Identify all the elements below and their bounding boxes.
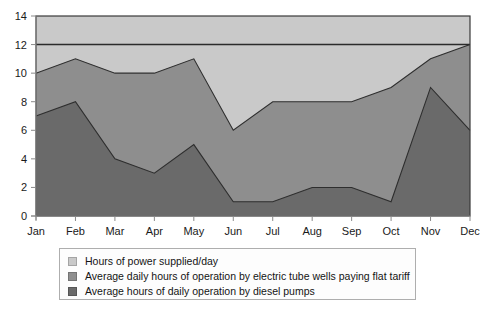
x-axis-tick-label: Oct	[383, 225, 400, 237]
y-axis-tick-label: 14	[15, 10, 27, 22]
x-axis-tick-label: Sep	[342, 225, 362, 237]
x-axis-tick-label: Jan	[27, 225, 45, 237]
legend-label-power-supplied: Hours of power supplied/day	[85, 254, 218, 268]
legend-swatch-diesel-pumps	[68, 287, 77, 296]
y-axis-tick-label: 12	[15, 39, 27, 51]
y-axis-tick-label: 10	[15, 67, 27, 79]
legend-label-diesel-pumps: Average hours of daily operation by dies…	[85, 284, 315, 298]
chart-container: 02468101214 JanFebMarAprMayJunJulAugSepO…	[0, 0, 496, 310]
y-axis-tick-label: 0	[21, 210, 27, 222]
x-axis-tick-label: Apr	[146, 225, 163, 237]
x-axis-tick-label: Jun	[224, 225, 242, 237]
legend-swatch-electric-tube-wells	[68, 272, 77, 281]
x-axis-tick-label: Jul	[266, 225, 280, 237]
y-axis-tick-label: 4	[21, 153, 27, 165]
y-axis-tick-label: 8	[21, 96, 27, 108]
legend-item-diesel-pumps: Average hours of daily operation by dies…	[68, 284, 415, 298]
legend-swatch-power-supplied	[68, 257, 77, 266]
y-axis-tick-label: 2	[21, 181, 27, 193]
x-axis-tick-label: Nov	[421, 225, 441, 237]
chart-legend: Hours of power supplied/day Average dail…	[59, 248, 416, 300]
x-axis-tick-label: Feb	[66, 225, 85, 237]
x-axis-tick-label: Mar	[105, 225, 124, 237]
x-axis-tick-label: Aug	[302, 225, 322, 237]
legend-item-power-supplied: Hours of power supplied/day	[68, 254, 415, 268]
x-axis-tick-label: May	[183, 225, 204, 237]
x-axis-tick-label: Dec	[460, 225, 480, 237]
y-axis-tick-label: 6	[21, 124, 27, 136]
legend-item-electric-tube-wells: Average daily hours of operation by elec…	[68, 269, 415, 283]
legend-label-electric-tube-wells: Average daily hours of operation by elec…	[85, 269, 410, 283]
x-axis: JanFebMarAprMayJunJulAugSepOctNovDec	[27, 216, 480, 237]
y-axis: 02468101214	[15, 10, 36, 222]
